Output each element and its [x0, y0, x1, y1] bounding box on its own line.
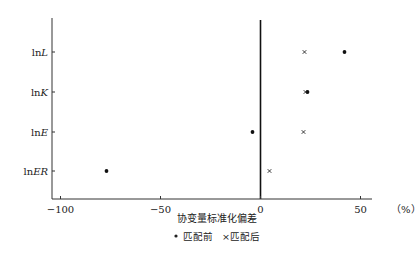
point-before-matching	[251, 130, 255, 134]
point-before-matching	[343, 50, 347, 54]
point-after-matching	[303, 50, 307, 54]
axes	[52, 18, 372, 199]
covariate-bias-chart: lnLlnKlnElnER −100−50050 协变量标准化偏差 （%） 匹配…	[0, 0, 420, 256]
data-points	[105, 50, 347, 173]
point-before-matching	[306, 90, 310, 94]
x-tick-label: −50	[150, 204, 171, 215]
legend-label-after: 匹配后	[230, 231, 260, 242]
legend: 匹配前 × 匹配后	[174, 231, 260, 243]
x-tick-label: 0	[257, 204, 263, 215]
legend-dot-icon	[174, 234, 177, 237]
x-tick-label: 50	[354, 204, 367, 215]
x-tick-label: −100	[47, 204, 74, 215]
x-axis-title: 协变量标准化偏差	[177, 212, 257, 224]
y-tick-label: lnL	[32, 47, 49, 58]
y-tick-label: lnK	[31, 87, 49, 98]
y-tick-label: lnE	[31, 127, 49, 138]
y-tick-label: lnER	[24, 166, 49, 177]
point-before-matching	[105, 169, 109, 173]
y-axis-labels: lnLlnKlnElnER	[24, 47, 55, 177]
point-after-matching	[268, 169, 272, 173]
point-after-matching	[302, 130, 306, 134]
x-axis-unit: （%）	[391, 204, 420, 215]
legend-label-before: 匹配前	[183, 231, 213, 242]
legend-x-icon: ×	[222, 231, 230, 242]
